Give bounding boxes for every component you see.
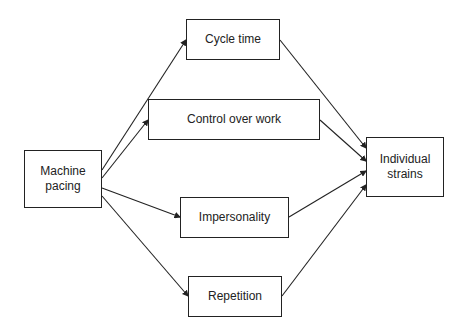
edge-control-over-work-to-individual-strains — [320, 120, 366, 161]
edge-machine-pacing-to-repetition — [102, 196, 188, 296]
node-repetition: Repetition — [188, 276, 282, 317]
node-label: Control over work — [187, 112, 281, 127]
edge-repetition-to-individual-strains — [282, 185, 366, 296]
edge-machine-pacing-to-control-over-work — [102, 120, 148, 178]
node-label: Repetition — [208, 289, 262, 304]
node-label: Impersonality — [199, 210, 270, 225]
edge-impersonality-to-individual-strains — [289, 171, 366, 217]
node-label: Machine pacing — [40, 164, 85, 194]
diagram-canvas: Machine pacing Cycle time Control over w… — [0, 0, 464, 332]
node-control-over-work: Control over work — [148, 99, 320, 140]
node-individual-strains: Individual strains — [366, 137, 444, 197]
node-machine-pacing: Machine pacing — [24, 150, 102, 208]
node-label: Individual strains — [380, 152, 431, 182]
node-label: Cycle time — [205, 32, 261, 47]
node-cycle-time: Cycle time — [186, 19, 280, 60]
edge-machine-pacing-to-impersonality — [102, 188, 180, 217]
node-impersonality: Impersonality — [180, 197, 289, 238]
